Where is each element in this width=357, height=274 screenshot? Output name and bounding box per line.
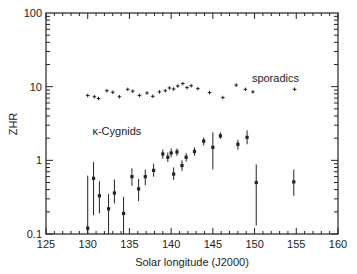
kcyg-point [211,146,214,149]
sporadics-label: sporadics [252,72,300,84]
sporadic-point [158,90,162,94]
sporadic-point [86,94,90,98]
x-axis-label: Solar longitude (J2000) [135,256,249,268]
zhr-chart: 1251301351401451501551600.1110100 sporad… [0,0,357,274]
kcyg-point [122,212,125,215]
sporadic-point [208,91,212,95]
kcyg-point [92,177,95,180]
x-tick-label: 160 [329,238,347,250]
sporadic-point [189,84,193,88]
sporadic-point [164,89,168,93]
sporadic-point [151,94,155,98]
sporadic-point [244,88,248,92]
sporadic-point [251,90,255,94]
series-sporadics [86,82,297,101]
kcyg-point [219,134,222,137]
y-axis-label: ZHR [7,113,19,136]
sporadic-point [97,97,101,101]
sporadic-point [176,84,180,88]
sporadic-point [181,82,185,86]
x-tick-label: 135 [120,238,138,250]
kappa-cygnids-label: κ-Cygnids [92,125,141,137]
kcyg-point [137,187,140,190]
sporadic-point [126,88,130,92]
y-tick-label: 100 [24,7,42,19]
x-tick-label: 155 [287,238,305,250]
kcyg-point [180,164,183,167]
y-tick-label: 10 [30,81,42,93]
kcyg-point [152,169,155,172]
sporadic-point [105,89,109,93]
kcyg-point [107,207,110,210]
sporadic-point [168,86,172,90]
x-tick-label: 150 [245,238,263,250]
axes [46,13,338,234]
series-kappa-cygnids [86,130,295,234]
y-tick-label: 1 [36,154,42,166]
kcyg-point [86,227,89,230]
x-tick-label: 130 [79,238,97,250]
kcyg-point [130,175,133,178]
kcyg-point [255,181,258,184]
kcyg-point [170,151,173,154]
kcyg-point [292,180,295,183]
x-tick-label: 145 [204,238,222,250]
kcyg-point [236,143,239,146]
kcyg-point [166,156,169,159]
kcyg-point [144,175,147,178]
sporadic-point [93,95,97,99]
y-tick-label: 0.1 [27,228,42,240]
kcyg-point [172,173,175,176]
kcyg-point [98,194,101,197]
x-tick-label: 140 [162,238,180,250]
plot-frame [46,13,338,234]
sporadic-point [131,89,135,93]
sporadic-point [221,96,225,100]
kcyg-point [185,156,188,159]
sporadic-point [234,83,238,87]
kcyg-point [245,136,248,139]
sporadic-point [293,88,297,92]
axis-ticks: 1251301351401451501551600.1110100 [24,7,348,250]
kcyg-point [113,191,116,194]
sporadic-point [172,87,176,91]
sporadic-point [185,86,189,90]
kcyg-point [202,140,205,143]
kcyg-point [161,152,164,155]
sporadic-point [111,90,115,94]
kcyg-point [175,150,178,153]
sporadic-point [196,87,200,91]
annotations: sporadicsκ-Cygnids [92,72,299,137]
sporadic-point [138,94,142,98]
sporadic-point [118,95,122,99]
kcyg-point [193,150,196,153]
sporadic-point [145,91,149,95]
